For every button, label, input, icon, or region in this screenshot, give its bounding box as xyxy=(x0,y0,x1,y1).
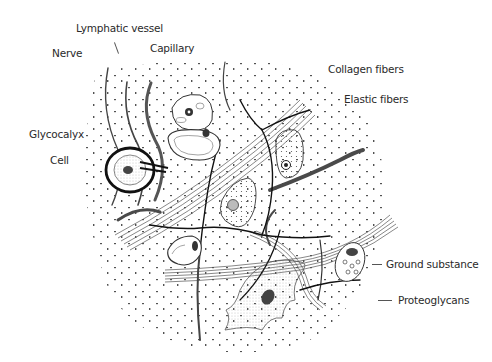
label-elastic-fibers: Elastic fibers xyxy=(344,93,408,105)
leader-proteoglycans xyxy=(378,300,392,301)
label-ground-substance: Ground substance xyxy=(386,258,478,270)
label-capillary: Capillary xyxy=(150,42,194,54)
label-proteoglycans: Proteoglycans xyxy=(398,294,469,306)
label-cell: Cell xyxy=(50,154,69,166)
label-collagen-fibers: Collagen fibers xyxy=(328,63,404,75)
label-nerve: Nerve xyxy=(52,47,82,59)
stippled-cell-upper xyxy=(276,130,303,178)
label-lymphatic-vessel: Lymphatic vessel xyxy=(76,22,163,34)
label-glycocalyx: Glycocalyx xyxy=(29,128,84,140)
leader-ground-substance xyxy=(372,264,382,265)
diagram-canvas: Lymphatic vessel Nerve Capillary Collage… xyxy=(0,0,492,362)
